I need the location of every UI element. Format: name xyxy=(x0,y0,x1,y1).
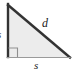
label-height: s xyxy=(0,29,1,40)
label-base: s xyxy=(34,60,38,71)
right-triangle-figure: d s s xyxy=(0,0,76,74)
label-hypotenuse: d xyxy=(42,17,48,29)
